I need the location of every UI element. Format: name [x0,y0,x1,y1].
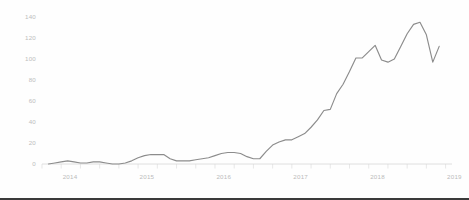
line-chart: 020406080100120140 201420152016201720182… [0,0,469,196]
y-tick-label: 40 [29,118,37,125]
y-tick-label: 120 [25,34,36,41]
series-line-series-1 [48,22,439,164]
y-tick-label: 20 [29,139,37,146]
y-tick-label: 100 [25,55,36,62]
x-axis-tick-labels: 201420152016201720182019 [63,173,462,180]
x-tick-label: 2016 [216,173,231,180]
x-tick-label: 2015 [140,173,155,180]
x-axis-tick-marks [42,164,446,169]
y-tick-label: 0 [32,160,36,167]
y-tick-label: 80 [29,76,37,83]
x-tick-label: 2017 [293,173,308,180]
chart-page: 020406080100120140 201420152016201720182… [0,0,469,200]
x-tick-label: 2019 [447,173,462,180]
chart-canvas: 020406080100120140 201420152016201720182… [0,0,469,196]
x-tick-label: 2014 [63,173,78,180]
x-tick-label: 2018 [370,173,385,180]
data-series-group [48,22,439,164]
y-axis-tick-labels: 020406080100120140 [25,13,36,167]
y-tick-label: 140 [25,13,36,20]
y-tick-label: 60 [29,97,37,104]
